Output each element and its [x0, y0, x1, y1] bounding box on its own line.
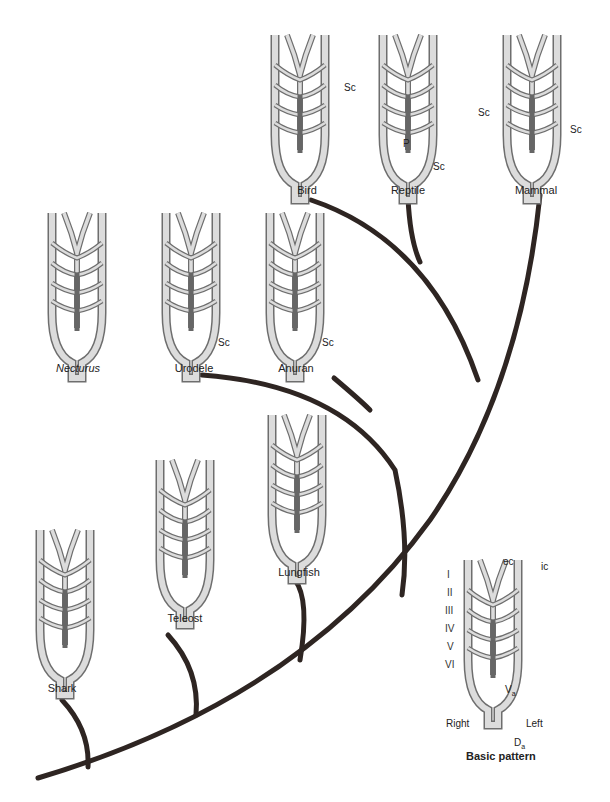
- sc-reptile: Sc: [433, 161, 445, 172]
- ec-label: ec: [503, 556, 514, 567]
- phylogenetic-tree: [0, 0, 610, 802]
- anuran-arches: [270, 213, 320, 378]
- right-label: Right: [446, 718, 469, 729]
- label-mammal: Mammal: [515, 184, 557, 196]
- teleost-arches: [160, 460, 210, 625]
- sc-mammal-right: Sc: [478, 107, 490, 118]
- basic-pattern-arches: [468, 560, 518, 725]
- arch-label-iii: III: [445, 605, 453, 616]
- arch-label-vi: VI: [445, 659, 454, 670]
- necturus-arches: [52, 213, 102, 378]
- sc-anuran: Sc: [322, 337, 334, 348]
- ic-label: ic: [541, 561, 548, 572]
- label-urodele: Urodele: [175, 362, 214, 374]
- da-label: Da: [514, 737, 525, 750]
- sc-urodele: Sc: [218, 337, 230, 348]
- label-bird: Bird: [297, 184, 317, 196]
- label-anuran: Anuran: [278, 362, 313, 374]
- lungfish-arches: [272, 415, 322, 580]
- label-necturus: Necturus: [56, 362, 100, 374]
- label-teleost: Teleost: [168, 612, 203, 624]
- mammal-arches: [507, 35, 557, 200]
- label-lungfish: Lungfish: [278, 566, 320, 578]
- urodele-arches: [166, 213, 216, 378]
- sc-mammal-left: Sc: [570, 124, 582, 135]
- tree-branches: [38, 195, 540, 778]
- reptile-arches: [383, 35, 433, 200]
- label-shark: Shark: [48, 682, 77, 694]
- label-reptile: Reptile: [391, 184, 425, 196]
- bird-arches: [275, 35, 325, 200]
- arch-label-v: V: [447, 641, 454, 652]
- arch-label-i: I: [447, 569, 450, 580]
- va-label: Va: [505, 684, 516, 697]
- arch-label-iv: IV: [445, 623, 454, 634]
- arch-label-ii: II: [447, 587, 453, 598]
- left-label: Left: [526, 718, 543, 729]
- sc-bird: Sc: [344, 82, 356, 93]
- basic-pattern-title: Basic pattern: [466, 750, 536, 762]
- shark-arches: [40, 530, 90, 695]
- p-reptile: P: [403, 138, 410, 149]
